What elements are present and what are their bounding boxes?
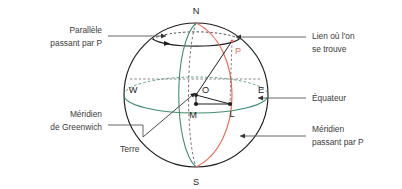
point-o-dot [194, 93, 198, 97]
label-east: E [258, 85, 264, 95]
callout-equator-line1: Équateur [312, 93, 346, 103]
callout-meridian-p-line1: Méridien [312, 124, 344, 134]
point-p-dot [230, 39, 233, 42]
label-center-o: O [202, 85, 209, 95]
callout-meridian-p-line2: passant par P [312, 137, 364, 147]
label-north-pole: N [193, 6, 200, 16]
callout-location-line2: se trouve [312, 44, 347, 54]
label-south-pole: S [193, 177, 199, 187]
greenwich-meridian [179, 23, 196, 167]
radius-o-to-l [196, 95, 230, 104]
parallel-through-p-back-arc [153, 32, 240, 39]
label-point-l: L [229, 109, 234, 119]
callout-greenwich-line2: de Greenwich [50, 122, 102, 132]
figure-canvas: N S W E O M L P Terre Parallèle passant … [0, 0, 402, 189]
earth-coordinates-diagram: N S W E O M L P Terre Parallèle passant … [0, 0, 402, 189]
parallel-direction-arrow-left [164, 41, 170, 46]
point-l-dot [228, 102, 232, 106]
greenwich-leader-arrow [143, 93, 195, 137]
equator-back-arc [124, 77, 268, 95]
label-point-m: M [189, 110, 197, 120]
label-west: W [129, 85, 138, 95]
label-terre: Terre [120, 144, 140, 154]
point-m-dot [194, 102, 198, 106]
callout-location-line1: Lien où l'on [312, 31, 355, 41]
meridian-through-p [196, 23, 232, 167]
callout-greenwich-leader [108, 125, 143, 137]
callout-parallel-line1: Parallèle [69, 25, 102, 35]
callout-greenwich-line1: Méridien [70, 109, 102, 119]
label-point-p: P [235, 46, 241, 56]
callout-parallel-line2: passant par P [50, 38, 102, 48]
